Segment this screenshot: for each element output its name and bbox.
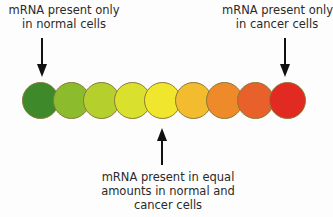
label-line: in cancer cells xyxy=(222,17,332,31)
label-line: mRNA present only xyxy=(222,3,332,17)
label-line: amounts in normal and xyxy=(93,184,243,198)
label-line: mRNA present in equal xyxy=(93,170,243,184)
arrow-down-icon xyxy=(37,38,47,78)
label-line: in normal cells xyxy=(4,17,124,31)
label-normal-only: mRNA present only in normal cells xyxy=(4,3,124,31)
label-line: cancer cells xyxy=(93,198,243,212)
label-cancer-only: mRNA present only in cancer cells xyxy=(222,3,332,31)
arrow-down-icon xyxy=(280,38,290,78)
arrow-up-icon xyxy=(157,128,167,166)
scale-circle-9 xyxy=(269,82,306,119)
label-line: mRNA present only xyxy=(4,3,124,17)
label-equal-amounts: mRNA present in equal amounts in normal … xyxy=(93,170,243,212)
